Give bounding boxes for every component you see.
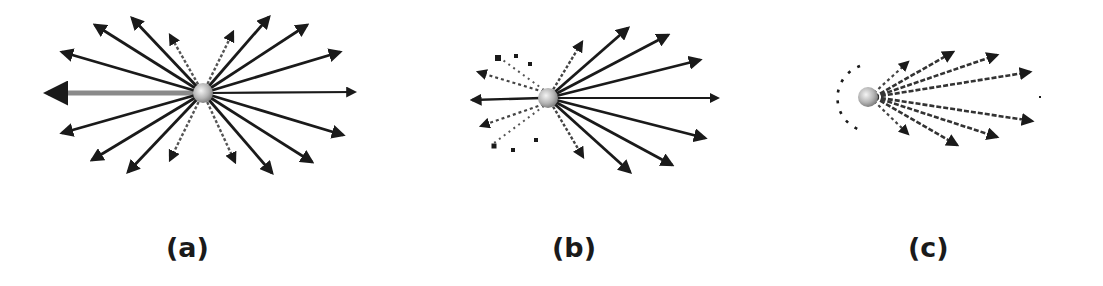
panel-a-isotropic	[48, 17, 355, 173]
ray-arrow-dashed	[874, 97, 997, 137]
ray-arrow	[62, 93, 203, 133]
ray-arrow	[203, 52, 340, 93]
fragment-mark	[511, 148, 515, 152]
ray-arrow	[203, 93, 272, 173]
source-sphere	[193, 83, 213, 103]
panel-c-label: (c)	[908, 232, 949, 263]
ray-arrow-left	[472, 98, 542, 100]
panel-c-strong-beaming	[837, 52, 1041, 145]
backward-dashed-arc	[837, 66, 860, 130]
weak-ray	[494, 106, 544, 143]
fragment-mark	[492, 144, 497, 149]
panel-a-label: (a)	[166, 232, 209, 263]
weak-ray	[500, 58, 544, 90]
fragment-mark	[528, 62, 532, 66]
source-sphere	[538, 88, 558, 108]
weak-ray-arrow	[481, 104, 544, 126]
ray-arrow	[203, 93, 343, 135]
ray-arrow-right	[209, 92, 355, 93]
fragment-mark	[495, 55, 501, 61]
panel-b-partial-beaming	[472, 28, 718, 172]
fragment-mark	[514, 54, 518, 58]
source-sphere	[858, 87, 878, 107]
fragment-mark	[534, 138, 538, 142]
ray-arrow-dashed	[874, 72, 1030, 97]
ray-arrow	[203, 93, 312, 162]
panel-b-label: (b)	[552, 232, 596, 263]
ray-arrow-dashed	[874, 97, 1032, 121]
tick-mark	[1039, 96, 1041, 98]
